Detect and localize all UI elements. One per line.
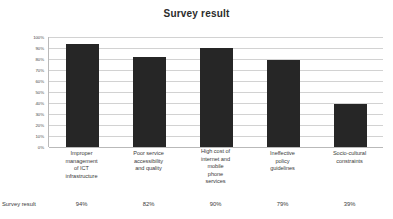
category-label-line: Ineffective bbox=[249, 150, 316, 158]
category-label-line: policy bbox=[249, 158, 316, 166]
chart-title: Survey result bbox=[0, 8, 393, 19]
series-name-label: Survey result bbox=[2, 200, 36, 209]
y-axis-tick-label: 50% bbox=[36, 90, 45, 95]
y-axis-tick-label: 30% bbox=[36, 112, 45, 117]
plot-area bbox=[48, 37, 383, 147]
data-cell-value: 90% bbox=[182, 200, 249, 209]
bar bbox=[66, 44, 99, 147]
category-label: High cost ofinternet andmobilephoneservi… bbox=[182, 148, 249, 186]
category-label-line: phone bbox=[182, 171, 249, 179]
bar bbox=[133, 57, 166, 147]
y-axis-tick-label: 40% bbox=[36, 101, 45, 106]
category-label-line: management bbox=[48, 158, 115, 166]
y-axis-tick-label: 60% bbox=[36, 79, 45, 84]
y-axis-tick-label: 20% bbox=[36, 123, 45, 128]
bar bbox=[334, 104, 367, 147]
category-label-line: Poor service bbox=[115, 150, 182, 158]
category-label: Ineffectivepolicyguidelines bbox=[249, 150, 316, 173]
data-cell-value: 79% bbox=[249, 200, 316, 209]
category-label-line: mobile bbox=[182, 163, 249, 171]
category-label-line: constraints bbox=[316, 158, 383, 166]
y-axis-tick-label: 0% bbox=[38, 145, 44, 150]
data-cell-value: 39% bbox=[316, 200, 383, 209]
data-table-row: Survey result 94%82%90%79%39% bbox=[0, 200, 393, 212]
y-axis-tick-label: 70% bbox=[36, 68, 45, 73]
y-axis-tick-labels: 100%90%80%70%60%50%40%30%20%10%0% bbox=[20, 37, 46, 147]
survey-result-bar-chart: Survey result 100%90%80%70%60%50%40%30%2… bbox=[0, 0, 393, 219]
category-label-line: guidelines bbox=[249, 165, 316, 173]
bar bbox=[267, 60, 300, 147]
y-axis-tick-label: 90% bbox=[36, 46, 45, 51]
category-label: Impropermanagementof ICTinfrastructure bbox=[48, 150, 115, 180]
category-label-line: infrastructure bbox=[48, 173, 115, 181]
category-axis-labels: Impropermanagementof ICTinfrastructurePo… bbox=[48, 150, 383, 196]
category-label: Socio-culturalconstraints bbox=[316, 150, 383, 165]
category-label: Poor serviceaccessibilityand quality bbox=[115, 150, 182, 173]
category-label-line: High cost of bbox=[182, 148, 249, 156]
bar-series-survey-result bbox=[49, 37, 383, 147]
category-label-line: Improper bbox=[48, 150, 115, 158]
data-cell-value: 94% bbox=[48, 200, 115, 209]
category-label-line: services bbox=[182, 178, 249, 186]
category-label-line: internet and bbox=[182, 156, 249, 164]
y-axis-tick-label: 100% bbox=[33, 35, 44, 40]
category-label-line: and quality bbox=[115, 165, 182, 173]
category-label-line: Socio-cultural bbox=[316, 150, 383, 158]
bar bbox=[200, 48, 233, 147]
data-cell-value: 82% bbox=[115, 200, 182, 209]
category-label-line: of ICT bbox=[48, 165, 115, 173]
category-label-line: accessibility bbox=[115, 158, 182, 166]
y-axis-tick-label: 80% bbox=[36, 57, 45, 62]
y-axis-tick-label: 10% bbox=[36, 134, 45, 139]
